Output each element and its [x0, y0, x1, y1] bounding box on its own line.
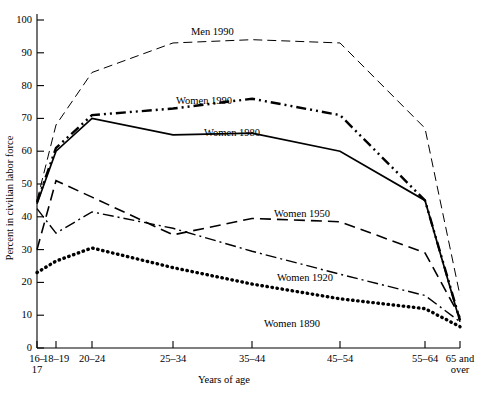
x-axis-tick-label: 45–54: [312, 353, 368, 364]
series-label-women-1980: Women 1980: [204, 127, 260, 138]
y-axis-tick-label: 100: [0, 14, 32, 25]
x-axis-ticks: [37, 341, 460, 348]
data-series-group: [37, 40, 460, 327]
series-label-women-1990: Women 1990: [176, 95, 232, 106]
data-series-line: [37, 118, 460, 321]
x-axis-tick-label: 25–34: [145, 353, 201, 364]
y-axis-tick-label: 0: [0, 342, 32, 353]
data-series-line: [37, 181, 460, 317]
x-axis-tick-label: 35–44: [224, 353, 280, 364]
data-series-line: [37, 40, 460, 296]
series-label-women-1890: Women 1890: [264, 318, 320, 329]
series-label-women-1920: Women 1920: [277, 272, 333, 283]
series-label-men-1990: Men 1990: [191, 26, 234, 37]
y-axis-tick-label: 20: [0, 276, 32, 287]
x-axis-title: Years of age: [198, 374, 250, 385]
data-series-line: [37, 209, 460, 322]
x-axis-tick-label: 65 andover: [432, 353, 479, 375]
series-label-women-1950: Women 1950: [274, 208, 330, 219]
y-axis-ticks: [37, 20, 44, 348]
data-series-line: [37, 248, 460, 327]
y-axis-tick-label: 80: [0, 80, 32, 91]
y-axis-tick-label: 70: [0, 112, 32, 123]
y-axis-tick-label: 90: [0, 47, 32, 58]
y-axis-title: Percent in civilian labor force: [4, 123, 15, 273]
x-axis-tick-label: 20–24: [64, 353, 120, 364]
y-axis-tick-label: 10: [0, 309, 32, 320]
